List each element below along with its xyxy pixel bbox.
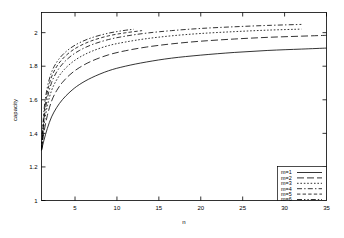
x-tick-label: 25 — [239, 205, 246, 211]
y-axis-title: capacity — [12, 99, 18, 121]
x-tick-label: 10 — [114, 205, 121, 211]
y-tick-label: 1.6 — [29, 97, 38, 103]
y-tick-label: 1.4 — [29, 131, 38, 137]
x-tick-label: 15 — [156, 205, 163, 211]
chart-figure: 11.21.41.61.82 5101520253035 capacity n … — [0, 0, 344, 238]
chart-legend: m=1m=2m=3m=4m=5m=6 — [278, 167, 327, 203]
chart-background — [0, 0, 344, 238]
y-tick-label: 1.2 — [29, 164, 38, 170]
x-tick-label: 30 — [281, 205, 288, 211]
legend-label-m6: m=6 — [281, 196, 292, 202]
x-axis-title: n — [182, 219, 185, 225]
x-tick-label: 20 — [197, 205, 204, 211]
capacity-vs-n-line-chart: 11.21.41.61.82 5101520253035 capacity n … — [0, 0, 344, 238]
y-tick-label: 1.8 — [29, 63, 38, 69]
x-tick-label: 35 — [323, 205, 330, 211]
